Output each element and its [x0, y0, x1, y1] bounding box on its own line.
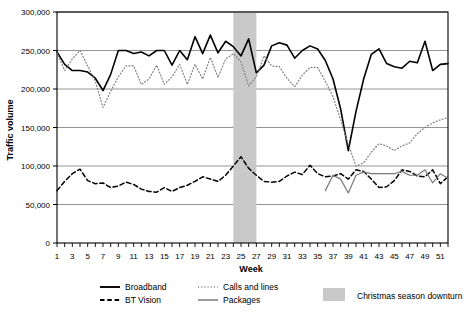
- x-tick-label: 5: [85, 252, 90, 261]
- legend-label-bt-vision: BT Vision: [125, 295, 161, 305]
- x-tick-label: 41: [359, 252, 368, 261]
- traffic-volume-line-chart: 050,000100,000150,000200,000250,000300,0…: [0, 0, 466, 315]
- legend: BroadbandCalls and linesBT VisionPackage…: [100, 282, 463, 305]
- y-tick-label: 200,000: [21, 85, 50, 94]
- legend-swatch-christmas-band: [323, 288, 345, 301]
- y-tick-label: 150,000: [21, 124, 50, 133]
- x-tick-label: 39: [344, 252, 353, 261]
- x-tick-label: 43: [375, 252, 384, 261]
- x-tick-label: 7: [101, 252, 106, 261]
- legend-label-broadband: Broadband: [125, 282, 167, 292]
- x-tick-label: 33: [298, 252, 307, 261]
- y-tick-label: 0: [46, 239, 51, 248]
- x-tick-label: 23: [221, 252, 230, 261]
- legend-label-christmas-season-downturn: Christmas season downturn: [357, 291, 463, 301]
- y-axis-ticks: 050,000100,000150,000200,000250,000300,0…: [21, 8, 57, 248]
- x-tick-label: 3: [70, 252, 75, 261]
- x-tick-label: 13: [145, 252, 154, 261]
- y-tick-label: 300,000: [21, 8, 50, 17]
- x-tick-label: 37: [329, 252, 338, 261]
- chart-container: 050,000100,000150,000200,000250,000300,0…: [0, 0, 466, 315]
- y-axis-title: Traffic volume: [5, 99, 15, 160]
- x-tick-label: 21: [206, 252, 215, 261]
- x-tick-label: 51: [436, 252, 445, 261]
- x-tick-label: 17: [175, 252, 184, 261]
- x-axis-ticks: 1357911131517192123252729313335373941434…: [55, 243, 448, 261]
- x-tick-label: 29: [267, 252, 276, 261]
- legend-label-packages: Packages: [223, 295, 260, 305]
- x-tick-label: 25: [237, 252, 246, 261]
- x-tick-label: 1: [55, 252, 60, 261]
- x-tick-label: 35: [313, 252, 322, 261]
- x-axis-title: Week: [239, 264, 263, 274]
- x-tick-label: 9: [116, 252, 121, 261]
- y-tick-label: 50,000: [26, 201, 51, 210]
- x-tick-label: 47: [405, 252, 414, 261]
- x-tick-label: 31: [283, 252, 292, 261]
- x-tick-label: 11: [130, 252, 139, 261]
- x-tick-label: 49: [421, 252, 430, 261]
- y-tick-label: 250,000: [21, 47, 50, 56]
- y-tick-label: 100,000: [21, 162, 50, 171]
- x-tick-label: 19: [191, 252, 200, 261]
- x-tick-label: 45: [390, 252, 399, 261]
- legend-label-calls-and-lines: Calls and lines: [223, 282, 278, 292]
- x-tick-label: 27: [252, 252, 261, 261]
- x-tick-label: 15: [160, 252, 169, 261]
